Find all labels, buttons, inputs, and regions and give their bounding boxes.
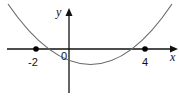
x-axis-label: x bbox=[169, 50, 176, 64]
root-label-4: 4 bbox=[142, 56, 148, 68]
y-axis-label: y bbox=[55, 5, 62, 19]
root-point-4 bbox=[142, 46, 148, 52]
root-label-neg2: -2 bbox=[28, 56, 38, 68]
origin-label: 0 bbox=[61, 50, 67, 62]
root-point-neg2 bbox=[33, 46, 39, 52]
parabola-diagram: -2 0 4 x y bbox=[0, 0, 179, 100]
y-axis-arrow-icon bbox=[66, 8, 73, 16]
